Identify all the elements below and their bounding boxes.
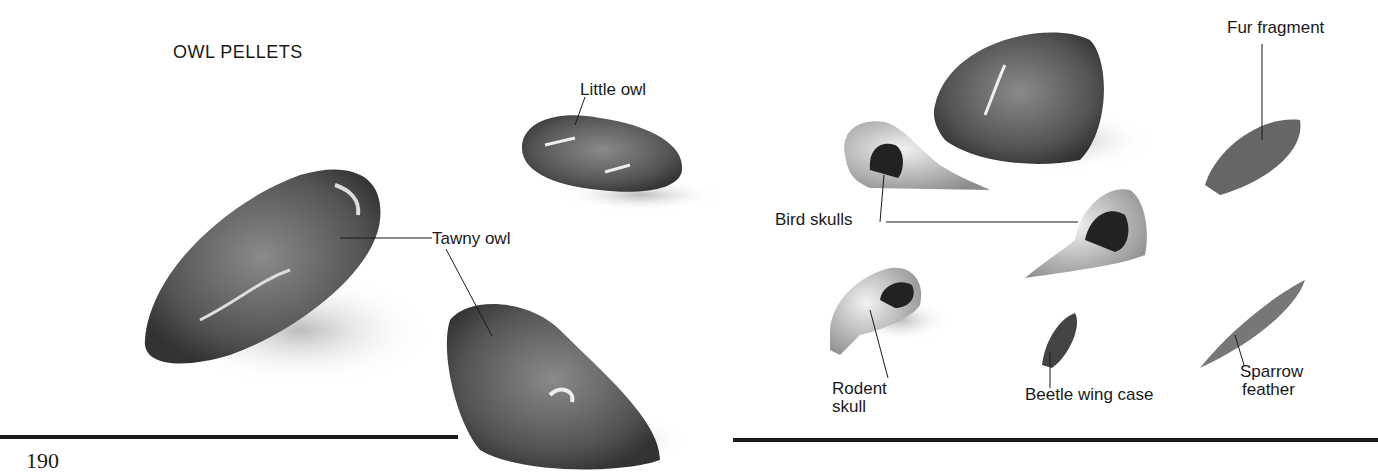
beetle-wing-case: [1042, 313, 1077, 368]
label-little-owl: Little owl: [580, 80, 646, 99]
page-number: 190: [26, 448, 59, 474]
tawny-owl-pellet-large: [145, 169, 430, 385]
label-rodent-skull-line1: Rodent: [832, 379, 887, 398]
label-beetle-wing-case: Beetle wing case: [1025, 385, 1154, 404]
bird-skull-2: [1025, 189, 1147, 278]
tawny-owl-pellet-small: [447, 304, 690, 470]
label-tawny-owl: Tawny owl: [432, 229, 510, 248]
label-rodent-skull-line2: skull: [832, 397, 866, 416]
illustration-canvas: [0, 0, 1378, 474]
label-fur-fragment: Fur fragment: [1227, 18, 1324, 37]
rodent-skull: [830, 268, 950, 355]
label-bird-skulls: Bird skulls: [775, 210, 852, 229]
little-owl-pellet: [522, 115, 720, 211]
sparrow-feather: [1200, 280, 1305, 368]
page-title: OWL PELLETS: [173, 42, 303, 63]
label-sparrow-feather-line2: feather: [1242, 380, 1295, 399]
dissected-pellet: [934, 33, 1150, 170]
rule-right: [733, 438, 1378, 442]
label-sparrow-feather-line1: Sparrow: [1240, 362, 1303, 381]
fur-fragment: [1205, 120, 1300, 195]
rule-left: [0, 435, 458, 439]
